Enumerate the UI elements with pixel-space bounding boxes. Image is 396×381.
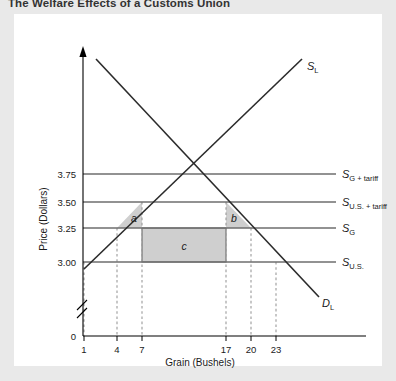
- x-tick-label: 1: [81, 344, 86, 355]
- y-tick-label: 3.25: [58, 223, 77, 234]
- x-tick-label: 17: [221, 344, 232, 355]
- axis-break-icon: [77, 300, 87, 318]
- curve-label-dl: DL: [322, 297, 334, 312]
- chart-card: SL DL a b c SG + tariff SU.S. + tariff S…: [14, 14, 382, 366]
- region-label-b: b: [231, 212, 237, 224]
- dashed-gridlines: [84, 202, 276, 336]
- region-label-c: c: [181, 240, 187, 252]
- x-tick-label: 23: [271, 344, 282, 355]
- figure-title: The Welfare Effects of a Customs Union: [8, 0, 230, 9]
- chart-svg: SL DL a b c SG + tariff SU.S. + tariff S…: [14, 14, 382, 366]
- x-tick-label: 20: [246, 344, 257, 355]
- x-axis-title: Grain (Bushels): [165, 357, 234, 368]
- curve-label-sl: SL: [307, 60, 319, 75]
- x-tick-label: 4: [114, 344, 119, 355]
- y-tick-label: 3.75: [58, 169, 77, 180]
- legend-item-sus-tariff: SU.S. + tariff: [342, 196, 388, 211]
- legend-item-sg: SG: [342, 222, 355, 237]
- region-label-a: a: [131, 212, 137, 224]
- origin-label: 0: [71, 331, 76, 342]
- x-tick-marks: [84, 336, 276, 341]
- chart-plot-area: SL DL a b c SG + tariff SU.S. + tariff S…: [14, 14, 382, 366]
- y-axis-title: Price (Dollars): [38, 187, 49, 250]
- legend-item-sus: SU.S.: [342, 256, 364, 271]
- x-tick-label: 7: [139, 344, 144, 355]
- y-tick-label: 3.50: [58, 197, 77, 208]
- y-tick-label: 3.00: [58, 257, 77, 268]
- region-b-triangle: [226, 202, 251, 228]
- legend-item-sg-tariff: SG + tariff: [342, 168, 379, 183]
- y-axis-arrow: [79, 46, 86, 57]
